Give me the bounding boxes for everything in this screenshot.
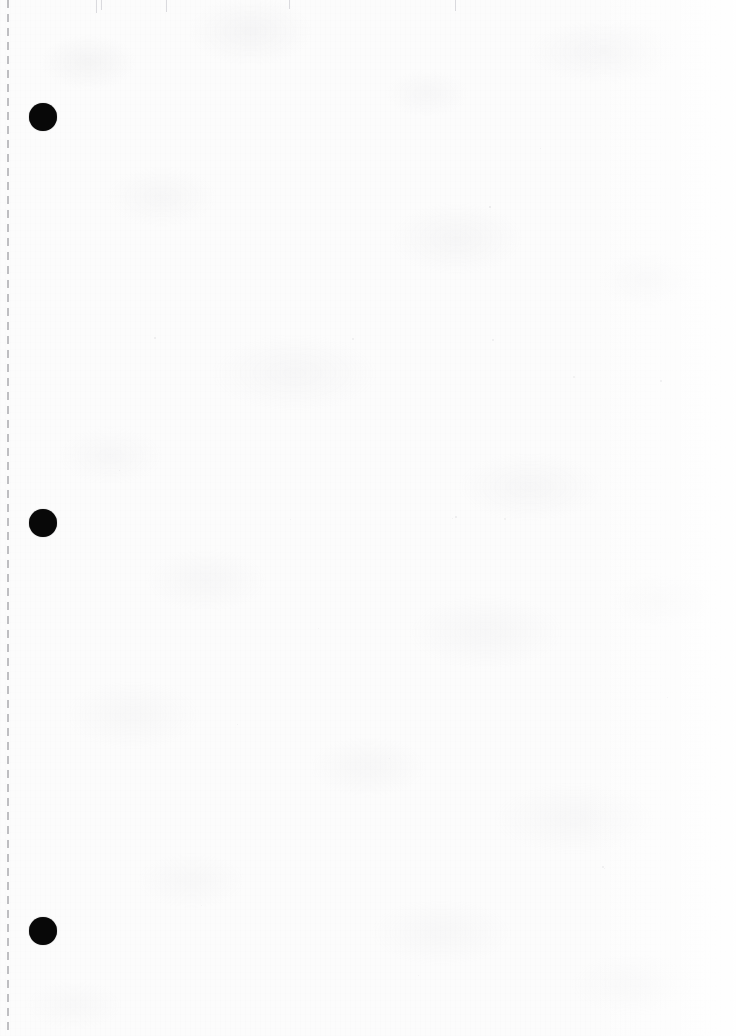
- hole-punch-3: [29, 917, 57, 945]
- scan-speck: [455, 516, 457, 518]
- hole-punch-2: [29, 509, 57, 537]
- scan-speck: [154, 337, 156, 339]
- scan-speck: [492, 339, 494, 341]
- scan-speck: [540, 148, 541, 149]
- scan-speck: [389, 758, 390, 759]
- top-edge-tick: [166, 0, 167, 12]
- scan-speck: [201, 905, 202, 906]
- top-edge-tick: [455, 0, 456, 11]
- scan-speck: [573, 376, 575, 378]
- top-edge-tick: [96, 0, 97, 13]
- scan-speck: [318, 628, 319, 629]
- scan-speck: [290, 519, 291, 520]
- top-edge-tick: [101, 0, 102, 10]
- hole-punch-1: [29, 103, 57, 131]
- scan-speck: [504, 518, 506, 520]
- scan-speck: [604, 868, 605, 869]
- top-edge-tick: [289, 0, 290, 9]
- paper-edge-highlight: [0, 0, 736, 1036]
- scan-speck: [352, 338, 354, 340]
- scan-speck: [119, 470, 120, 471]
- perforation-tear-line: [7, 0, 9, 1036]
- scan-speck: [489, 206, 491, 208]
- scanned-page: [0, 0, 736, 1036]
- scan-speck: [418, 975, 419, 976]
- scan-speck: [667, 697, 668, 698]
- scan-speck: [237, 724, 238, 725]
- scan-speck: [660, 380, 662, 382]
- scan-speck: [452, 518, 453, 519]
